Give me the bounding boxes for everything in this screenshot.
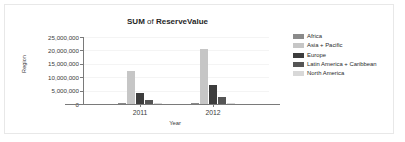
y-axis-line bbox=[83, 37, 84, 105]
legend-swatch-icon bbox=[293, 43, 304, 48]
bar[interactable] bbox=[200, 49, 209, 104]
chart-title-part-3: ReserveValue bbox=[156, 17, 208, 26]
legend-item-label: Europe bbox=[307, 52, 326, 59]
x-axis-tick bbox=[140, 104, 141, 107]
y-axis-title: Region bbox=[21, 44, 27, 84]
legend-swatch-icon bbox=[293, 34, 304, 39]
legend-swatch-icon bbox=[293, 62, 304, 67]
y-axis-tick-label: 25,000,000 bbox=[31, 34, 79, 41]
bar-group bbox=[118, 37, 163, 104]
legend-item[interactable]: Europe bbox=[293, 51, 405, 59]
legend-item[interactable]: Africa bbox=[293, 33, 405, 41]
gridline bbox=[84, 64, 269, 65]
y-axis-tick-labels: 25,000,00020,000,00015,000,00010,000,000… bbox=[29, 5, 79, 142]
legend-swatch-icon bbox=[293, 53, 304, 58]
plot-area bbox=[84, 37, 269, 104]
chart-title-part-2: of bbox=[145, 17, 156, 26]
x-axis-tick-label: 2012 bbox=[193, 109, 233, 116]
bar-group bbox=[191, 37, 236, 104]
y-axis-tick-label: 5,000,000 bbox=[31, 87, 79, 94]
x-axis-tick bbox=[213, 104, 214, 107]
gridline bbox=[84, 50, 269, 51]
y-axis-tick-label: 20,000,000 bbox=[31, 47, 79, 54]
gridline bbox=[84, 77, 269, 78]
legend-item-label: North America bbox=[307, 70, 344, 77]
x-axis-tick-label: 2011 bbox=[120, 109, 160, 116]
legend-item-label: Africa bbox=[307, 33, 322, 40]
bar[interactable] bbox=[127, 71, 136, 105]
legend-swatch-icon bbox=[293, 71, 304, 76]
legend-item-label: Latin America + Caribbean bbox=[307, 61, 377, 68]
legend-item[interactable]: Latin America + Caribbean bbox=[293, 61, 405, 69]
x-axis-title: Year bbox=[145, 120, 205, 126]
bar[interactable] bbox=[209, 85, 218, 104]
legend-item-label: Asia + Pacific bbox=[307, 42, 343, 49]
chart-frame: SUM of ReserveValue Region 25,000,00020,… bbox=[4, 4, 394, 134]
legend-item[interactable]: North America bbox=[293, 70, 405, 78]
chart-legend: AfricaAsia + PacificEuropeLatin America … bbox=[293, 33, 405, 79]
chart-title: SUM of ReserveValue bbox=[65, 17, 270, 26]
bar[interactable] bbox=[136, 93, 145, 104]
x-axis-line bbox=[65, 104, 280, 105]
bar[interactable] bbox=[218, 97, 227, 104]
y-axis-tick-label: 10,000,000 bbox=[31, 74, 79, 81]
chart-title-part-1: SUM bbox=[127, 17, 145, 26]
gridline bbox=[84, 91, 269, 92]
gridline bbox=[84, 37, 269, 38]
legend-item[interactable]: Asia + Pacific bbox=[293, 42, 405, 50]
y-axis-tick-label: 15,000,000 bbox=[31, 60, 79, 67]
